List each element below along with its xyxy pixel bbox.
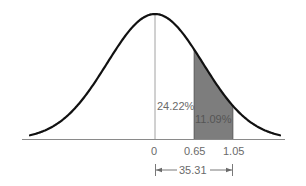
area-label-0-to-065: 24.22% [157, 101, 194, 112]
area-label-shaded: 11.09% [195, 114, 232, 125]
tick-label-105: 1.05 [223, 146, 244, 157]
normal-curve-diagram [0, 0, 306, 186]
tick-label-065: 0.65 [184, 146, 205, 157]
shaded-area-065-105 [194, 49, 233, 139]
span-label: 35.31 [179, 165, 207, 176]
tick-label-0: 0 [151, 146, 157, 157]
